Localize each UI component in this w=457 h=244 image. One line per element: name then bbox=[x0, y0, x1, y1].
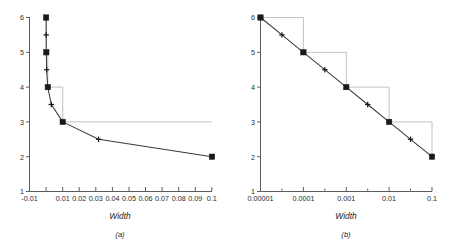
x-tick-label: 0.04 bbox=[105, 194, 119, 203]
y-tick-label: 2 bbox=[20, 153, 24, 162]
x-tick-label: 0.001 bbox=[337, 194, 355, 203]
y-tick-label: 6 bbox=[20, 13, 24, 22]
x-tick-label: 0.1 bbox=[207, 194, 217, 203]
chart-panel-a: 6 5 4 3 2 1 -0.01 0.01 0 bbox=[0, 0, 229, 244]
y-tick-label: 5 bbox=[20, 48, 24, 57]
panel-a-svg: 6 5 4 3 2 1 -0.01 0.01 0 bbox=[0, 0, 229, 244]
x-ticks-b: 0.00001 0.0001 0.001 0.01 0.1 bbox=[248, 187, 437, 203]
x-tick-label: 0.0001 bbox=[292, 194, 314, 203]
x-tick-label: 0.01 bbox=[382, 194, 396, 203]
y-tick-label: 3 bbox=[20, 118, 24, 127]
y-tick-label: 6 bbox=[251, 13, 255, 22]
panel-caption-b: (b) bbox=[341, 230, 351, 239]
y-ticks-b: 6 5 4 3 2 1 bbox=[251, 13, 261, 196]
x-axis-title-a: Width bbox=[109, 211, 131, 221]
x-ticks-a: -0.01 0.01 0.02 0.03 0.04 0.05 0.06 0.07… bbox=[21, 187, 216, 203]
x-tick-label: 0.06 bbox=[139, 194, 153, 203]
x-tick-label: 0.03 bbox=[89, 194, 103, 203]
data-curve-a bbox=[46, 18, 212, 157]
y-tick-label: 3 bbox=[251, 118, 255, 127]
data-markers-a bbox=[43, 15, 214, 160]
y-tick-label: 4 bbox=[20, 83, 24, 92]
chart-panel-b: 6 5 4 3 2 1 0.00001 0.0001 bbox=[228, 0, 457, 244]
y-tick-label: 2 bbox=[251, 153, 255, 162]
x-tick-label: 0.08 bbox=[172, 194, 186, 203]
x-axis-title-b: Width bbox=[335, 211, 357, 221]
y-tick-label: 5 bbox=[251, 48, 255, 57]
x-tick-label: 0.02 bbox=[72, 194, 86, 203]
y-tick-label: 4 bbox=[251, 83, 255, 92]
figure-container: 6 5 4 3 2 1 -0.01 0.01 0 bbox=[0, 0, 457, 244]
panel-caption-a: (a) bbox=[115, 230, 125, 239]
x-tick-label: 0.1 bbox=[427, 194, 437, 203]
x-tick-label: 0.01 bbox=[56, 194, 70, 203]
x-tick-label: 0.00001 bbox=[248, 194, 274, 203]
x-tick-label: 0.09 bbox=[188, 194, 202, 203]
x-tick-label: 0.05 bbox=[122, 194, 136, 203]
step-overlay-a bbox=[46, 18, 212, 122]
x-tick-label: 0.07 bbox=[155, 194, 169, 203]
y-ticks-a: 6 5 4 3 2 1 bbox=[20, 13, 30, 196]
x-tick-label: -0.01 bbox=[21, 194, 37, 203]
panel-b-svg: 6 5 4 3 2 1 0.00001 0.0001 bbox=[228, 0, 457, 244]
